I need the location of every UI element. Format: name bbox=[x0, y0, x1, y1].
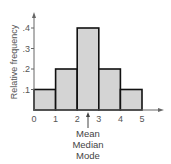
histogram-bar bbox=[77, 28, 99, 110]
x-tick-label: 0 bbox=[31, 114, 36, 124]
annotation-label: Mode bbox=[76, 150, 100, 161]
histogram-bar bbox=[56, 69, 78, 110]
histogram-bars bbox=[34, 28, 142, 110]
y-axis-title: Relative frequency bbox=[9, 24, 19, 99]
annotation-label: Median bbox=[72, 139, 103, 150]
y-tick-label: .4 bbox=[22, 23, 30, 33]
x-tick-label: 5 bbox=[139, 114, 144, 124]
annotation-label: Mean bbox=[76, 128, 100, 139]
y-tick-label: .1 bbox=[22, 85, 30, 95]
histogram-bar bbox=[120, 90, 142, 111]
y-tick-labels: .1.2.3.4 bbox=[22, 23, 34, 95]
histogram-bar bbox=[99, 69, 121, 110]
x-tick-label: 3 bbox=[96, 114, 101, 124]
y-tick-label: .2 bbox=[22, 64, 30, 74]
histogram-chart: .1.2.3.4 012345 Relative frequency MeanM… bbox=[0, 0, 171, 164]
x-tick-label: 4 bbox=[118, 114, 123, 124]
y-tick-label: .3 bbox=[22, 44, 30, 54]
x-tick-label: 2 bbox=[75, 114, 80, 124]
x-tick-label: 1 bbox=[53, 114, 58, 124]
histogram-bar bbox=[34, 90, 56, 111]
